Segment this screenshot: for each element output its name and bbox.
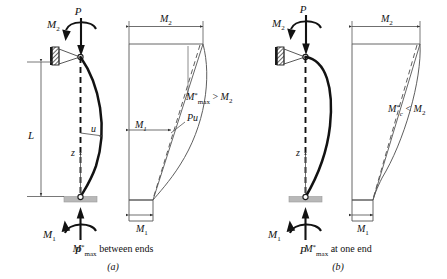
panel-a-m1-bottom-label: M1 bbox=[135, 223, 148, 237]
panel-b-bottom-moment-arrow bbox=[287, 221, 321, 234]
panel-a-m2-label: M2 bbox=[159, 13, 172, 27]
panel-b-m1-bottom-label: M1 bbox=[356, 223, 369, 237]
panel-b-top-support bbox=[275, 47, 308, 65]
panel-a-caption: M*max between ends bbox=[72, 243, 154, 258]
panel-a: P M2 L u z M1 P M2 M1 M1 Pu M*max > M2 M… bbox=[27, 5, 233, 273]
panel-a-top-support bbox=[50, 47, 83, 65]
panel-a-top-axial-label: P bbox=[74, 5, 82, 17]
panel-a-pu-leader bbox=[171, 122, 185, 133]
panel-a-max-moment-annotation: M*max > M2 bbox=[185, 91, 233, 106]
panel-a-length-label: L bbox=[27, 129, 34, 141]
panel-a-coordinate-label: z bbox=[70, 147, 75, 158]
panel-b-top-moment-arrow bbox=[287, 21, 321, 40]
panel-b-coordinate-label: z bbox=[295, 147, 300, 158]
panel-a-top-moment-arrow bbox=[62, 22, 96, 41]
panel-a-total-moment-curve bbox=[153, 44, 207, 200]
panel-b-moment-diagram bbox=[352, 21, 420, 221]
panel-b-base-moment-box bbox=[352, 200, 373, 221]
panel-b-top-moment-label: M2 bbox=[271, 17, 285, 32]
panel-b-top-axial-label: P bbox=[299, 3, 307, 15]
panel-b-primary-moment-outline bbox=[352, 44, 420, 200]
panel-a-deflection-label: u bbox=[91, 123, 96, 134]
panel-a-bottom-moment-label: M1 bbox=[42, 228, 56, 243]
panel-b-deflected-shape bbox=[306, 57, 331, 197]
panel-a-pu-label: Pu bbox=[186, 112, 198, 123]
panel-a-bottom-support bbox=[64, 194, 97, 202]
panel-b-max-moment-annotation: M*c < M2 bbox=[387, 103, 426, 118]
panel-a-m1-mid-label: M1 bbox=[134, 119, 147, 133]
panel-a-letter: (a) bbox=[107, 261, 119, 273]
panel-b-caption: M*max at one end bbox=[303, 243, 372, 258]
figure-root: P M2 L u z M1 P M2 M1 M1 Pu M*max > M2 M… bbox=[0, 0, 447, 279]
panel-b-m2-label: M2 bbox=[380, 13, 393, 27]
figure-canvas: P M2 L u z M1 P M2 M1 M1 Pu M*max > M2 M… bbox=[0, 0, 447, 279]
panel-b-bottom-support bbox=[289, 194, 322, 202]
panel-b-primary-moment-line bbox=[373, 45, 417, 199]
panel-a-bottom-moment-arrow bbox=[62, 221, 96, 234]
panel-b-letter: (b) bbox=[332, 261, 344, 273]
panel-b-bottom-moment-label: M1 bbox=[267, 228, 281, 243]
panel-b-column-group bbox=[275, 15, 331, 240]
panel-a-base-moment-box bbox=[129, 200, 153, 221]
panel-b: P M2 z M1 P M2 M1 M*c < M2 M*max at one … bbox=[267, 3, 426, 273]
panel-a-top-axial-load bbox=[77, 18, 85, 56]
panel-a-top-moment-label: M2 bbox=[46, 18, 60, 33]
